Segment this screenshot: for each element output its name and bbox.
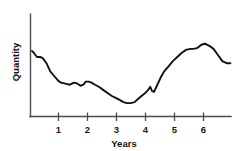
line-chart-figure: 1 2 3 4 5 6 Years Quantity: [0, 0, 245, 151]
x-axis-title: Years: [111, 138, 136, 149]
y-axis-title: Quantity: [10, 42, 21, 81]
x-tick-label-5: 5: [172, 124, 178, 135]
chart-plot-area: 1 2 3 4 5 6 Years Quantity: [0, 0, 245, 151]
data-series-line: [32, 44, 230, 103]
x-tick-label-1: 1: [56, 124, 62, 135]
x-tick-label-6: 6: [201, 124, 206, 135]
x-tick-label-2: 2: [85, 124, 90, 135]
x-tick-label-4: 4: [143, 124, 149, 135]
x-axis-tick-labels: 1 2 3 4 5 6: [56, 124, 206, 135]
x-tick-label-3: 3: [114, 124, 119, 135]
